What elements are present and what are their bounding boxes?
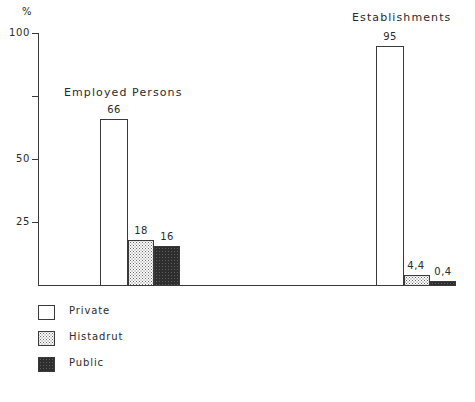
bar-value-employed-persons-public: 16 xyxy=(154,231,180,242)
y-axis-unit-label: % xyxy=(22,6,32,17)
bar-value-establishments-private: 95 xyxy=(376,31,404,42)
y-tick-50 xyxy=(32,159,39,160)
bar-establishments-histadrut xyxy=(404,275,430,286)
y-tick-label-25: 25 xyxy=(2,216,30,227)
bar-value-employed-persons-histadrut: 18 xyxy=(128,225,154,236)
legend-label-histadrut: Histadrut xyxy=(69,331,123,342)
bar-employed-persons-public xyxy=(154,246,180,286)
bar-establishments-public xyxy=(430,281,456,286)
bar-employed-persons-histadrut xyxy=(128,240,154,286)
legend-swatch-histadrut-icon xyxy=(38,331,55,346)
legend-label-public: Public xyxy=(69,357,104,368)
bar-chart: % 100 50 25 Employed Persons 66 18 16 Es… xyxy=(0,0,475,402)
legend-swatch-public-icon xyxy=(38,357,55,372)
y-tick-25 xyxy=(32,222,39,223)
group-title-establishments: Establishments xyxy=(352,11,451,24)
bar-establishments-private xyxy=(376,46,404,286)
group-title-employed-persons: Employed Persons xyxy=(64,86,183,99)
plot-area: % 100 50 25 Employed Persons 66 18 16 Es… xyxy=(0,0,475,402)
legend-label-private: Private xyxy=(69,305,110,316)
y-tick-75 xyxy=(32,96,39,97)
y-tick-label-50: 50 xyxy=(2,153,30,164)
bar-value-employed-persons-private: 66 xyxy=(100,104,128,115)
y-tick-label-100: 100 xyxy=(2,27,30,38)
legend-swatch-private-icon xyxy=(38,305,55,320)
bar-value-establishments-public: 0,4 xyxy=(430,266,456,277)
y-tick-100 xyxy=(32,33,39,34)
bar-value-establishments-histadrut: 4,4 xyxy=(402,260,430,271)
bar-employed-persons-private xyxy=(100,119,128,286)
